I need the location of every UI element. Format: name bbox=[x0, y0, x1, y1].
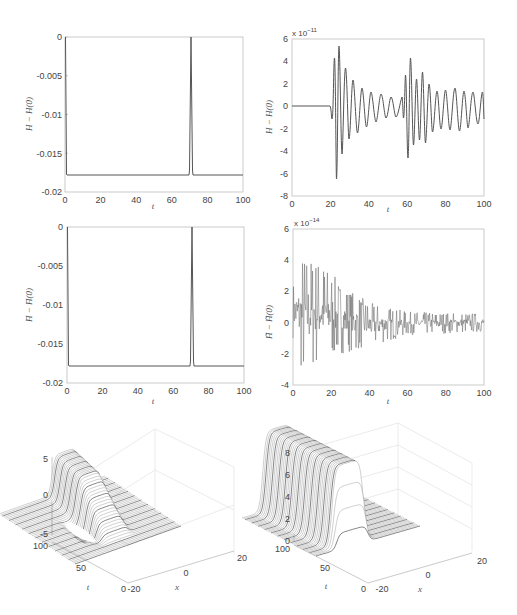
x-ticks: 0 20 40 60 80 100 bbox=[64, 386, 251, 396]
y-axis-label: H̃ − H̃(0) bbox=[264, 305, 274, 340]
svg-text:20: 20 bbox=[96, 195, 106, 205]
series-line bbox=[292, 46, 484, 179]
svg-text:100: 100 bbox=[236, 386, 251, 396]
svg-text:-0.015: -0.015 bbox=[37, 339, 63, 349]
svg-text:-4: -4 bbox=[281, 380, 289, 390]
svg-text:-20: -20 bbox=[375, 584, 388, 594]
svg-text:80: 80 bbox=[441, 388, 451, 398]
svg-text:-0.015: -0.015 bbox=[36, 149, 62, 159]
x-ticks: 0 20 40 60 80 100 bbox=[62, 195, 250, 205]
svg-text:40: 40 bbox=[133, 386, 143, 396]
t-axis-label: t bbox=[325, 581, 328, 591]
svg-text:80: 80 bbox=[202, 195, 212, 205]
svg-text:0: 0 bbox=[183, 568, 188, 578]
axes-frame bbox=[67, 227, 244, 383]
svg-text:0: 0 bbox=[57, 32, 62, 42]
plot-modified-energy-error-mid-right: x 10−14 6 4 2 0 -2 -4 0 20 40 60 80 100 … bbox=[258, 210, 517, 410]
svg-text:20: 20 bbox=[326, 388, 336, 398]
svg-text:0: 0 bbox=[284, 318, 289, 328]
svg-text:100: 100 bbox=[275, 544, 290, 554]
svg-text:0: 0 bbox=[361, 584, 366, 594]
svg-text:8: 8 bbox=[285, 448, 290, 458]
svg-text:60: 60 bbox=[168, 386, 178, 396]
svg-text:60: 60 bbox=[403, 388, 413, 398]
y-axis-label: H − H(0) bbox=[24, 97, 34, 132]
svg-text:-0.01: -0.01 bbox=[41, 110, 62, 120]
axis-exponent: x 10−11 bbox=[292, 27, 318, 38]
svg-text:2: 2 bbox=[283, 79, 288, 89]
axes-frame bbox=[65, 37, 243, 192]
svg-text:0: 0 bbox=[425, 570, 430, 580]
svg-text:-0.01: -0.01 bbox=[42, 300, 63, 310]
x-ticks: -20 0 20 bbox=[127, 553, 247, 594]
x-axis-label: t bbox=[152, 396, 155, 406]
svg-text:80: 80 bbox=[204, 386, 214, 396]
svg-text:60: 60 bbox=[167, 195, 177, 205]
svg-text:-0.02: -0.02 bbox=[41, 187, 62, 197]
svg-text:-6: -6 bbox=[280, 169, 288, 179]
plot-canvas: 5 0 -5 100 50 0 -20 0 20 t x bbox=[0, 415, 258, 615]
svg-text:4: 4 bbox=[284, 255, 289, 265]
series-line bbox=[68, 227, 245, 366]
svg-text:100: 100 bbox=[235, 195, 250, 205]
svg-text:-20: -20 bbox=[127, 584, 140, 594]
axes-frame bbox=[293, 229, 484, 385]
svg-text:100: 100 bbox=[33, 541, 48, 551]
mesh-surface bbox=[0, 449, 181, 564]
plot-canvas: 8 6 4 2 0 100 50 0 -20 0 20 t x bbox=[258, 415, 517, 615]
plot-canvas: x 10−14 6 4 2 0 -2 -4 0 20 40 60 80 100 … bbox=[258, 210, 517, 410]
svg-text:40: 40 bbox=[364, 388, 374, 398]
x-ticks: 0 20 40 60 80 100 bbox=[290, 388, 491, 398]
svg-text:5: 5 bbox=[43, 454, 48, 464]
plot-energy-error-top-left: 0 -0.005 -0.01 -0.015 -0.02 0 20 40 60 8… bbox=[0, 0, 258, 210]
y-ticks: 0 -0.005 -0.01 -0.015 -0.02 bbox=[36, 32, 68, 197]
plot-canvas: 0 -0.005 -0.01 -0.015 -0.02 0 20 40 60 8… bbox=[0, 210, 258, 410]
svg-text:20: 20 bbox=[237, 553, 247, 563]
svg-text:-5: -5 bbox=[40, 529, 48, 539]
y-axis-label: H̄ − H̄(0) bbox=[24, 288, 34, 323]
t-axis-label: t bbox=[87, 582, 90, 592]
svg-text:0: 0 bbox=[290, 388, 295, 398]
svg-text:100: 100 bbox=[476, 388, 491, 398]
t-ticks: 100 50 0 bbox=[275, 544, 366, 594]
svg-text:20: 20 bbox=[325, 199, 335, 209]
x-axis-label: x bbox=[417, 584, 422, 594]
svg-text:20: 20 bbox=[97, 386, 107, 396]
svg-text:0: 0 bbox=[283, 101, 288, 111]
axis-exponent: x 10−14 bbox=[294, 217, 320, 228]
svg-text:0: 0 bbox=[121, 584, 126, 594]
svg-text:6: 6 bbox=[285, 470, 290, 480]
svg-text:-0.005: -0.005 bbox=[36, 71, 62, 81]
y-ticks: 6 4 2 0 -2 -4 -6 -8 bbox=[280, 34, 288, 201]
svg-text:100: 100 bbox=[476, 199, 491, 209]
svg-text:4: 4 bbox=[285, 492, 290, 502]
svg-text:0: 0 bbox=[43, 490, 48, 500]
svg-text:0: 0 bbox=[289, 199, 294, 209]
y-ticks: 6 4 2 0 -2 -4 bbox=[281, 224, 289, 390]
svg-text:4: 4 bbox=[283, 56, 288, 66]
svg-text:2: 2 bbox=[284, 286, 289, 296]
svg-text:50: 50 bbox=[320, 563, 330, 573]
svg-text:-2: -2 bbox=[281, 349, 289, 359]
svg-text:0: 0 bbox=[58, 222, 63, 232]
svg-text:0: 0 bbox=[62, 195, 67, 205]
plot-energy-error-top-right: x 10−11 6 4 2 0 -2 -4 -6 -8 0 20 40 60 8… bbox=[258, 0, 517, 210]
x-ticks: 0 20 40 60 80 100 bbox=[289, 199, 491, 209]
svg-text:80: 80 bbox=[441, 199, 451, 209]
svg-text:-4: -4 bbox=[280, 146, 288, 156]
axes-frame bbox=[292, 39, 484, 196]
svg-text:-8: -8 bbox=[280, 191, 288, 201]
plot-canvas: x 10−11 6 4 2 0 -2 -4 -6 -8 0 20 40 60 8… bbox=[258, 0, 517, 210]
series-line bbox=[66, 37, 244, 175]
surface-plot-bottom-right: 8 6 4 2 0 100 50 0 -20 0 20 t x bbox=[258, 415, 517, 615]
svg-text:6: 6 bbox=[284, 224, 289, 234]
svg-text:40: 40 bbox=[131, 195, 141, 205]
x-ticks: -20 0 20 bbox=[375, 556, 487, 594]
x-axis-label: x bbox=[174, 582, 179, 592]
x-axis-label: t bbox=[387, 396, 390, 406]
svg-text:0: 0 bbox=[64, 386, 69, 396]
svg-text:-2: -2 bbox=[280, 124, 288, 134]
plot-modified-energy-error-mid-left: 0 -0.005 -0.01 -0.015 -0.02 0 20 40 60 8… bbox=[0, 210, 258, 410]
svg-text:2: 2 bbox=[285, 514, 290, 524]
svg-text:50: 50 bbox=[76, 563, 86, 573]
